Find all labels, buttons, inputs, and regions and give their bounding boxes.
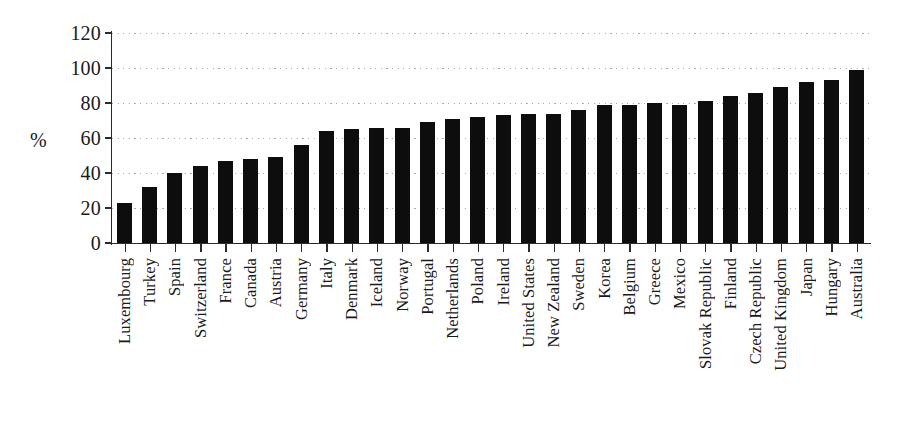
y-axis-unit-label: % [30, 130, 47, 150]
bar [344, 129, 359, 243]
gridline [112, 68, 870, 69]
x-axis-category-label: France [219, 258, 233, 304]
x-axis-category-label: United States [522, 258, 536, 348]
x-axis-category-label: Turkey [143, 258, 157, 306]
x-axis-category-label: Spain [168, 258, 182, 296]
bar [142, 187, 157, 243]
x-axis-tick [125, 243, 126, 252]
bar [319, 131, 334, 243]
bar [672, 105, 687, 243]
x-axis-tick [402, 243, 403, 252]
y-axis-tick [105, 242, 112, 243]
x-axis-category-label: Czech Republic [749, 258, 763, 364]
x-axis-tick [831, 243, 832, 252]
y-axis-tick-label: 20 [81, 198, 101, 218]
x-axis-category-label: Poland [471, 258, 485, 304]
bar [193, 166, 208, 243]
x-axis-tick [175, 243, 176, 252]
x-axis-tick [554, 243, 555, 252]
bar [395, 128, 410, 244]
x-axis-tick [225, 243, 226, 252]
bar [167, 173, 182, 243]
x-axis-category-label: Belgium [623, 258, 637, 316]
x-axis-category-label: Japan [800, 258, 814, 296]
bar [294, 145, 309, 243]
y-axis-tick-label: 40 [81, 163, 101, 183]
bar [369, 128, 384, 244]
x-axis-category-label: Mexico [673, 258, 687, 309]
x-axis-category-label: Italy [320, 258, 334, 289]
x-axis-category-label: Korea [598, 258, 612, 299]
x-axis-category-label: Netherlands [446, 258, 460, 339]
x-axis-tick [528, 243, 529, 252]
y-axis-tick-label: 0 [91, 233, 101, 253]
x-axis-category-label: Norway [396, 258, 410, 312]
bar [546, 114, 561, 244]
x-axis-tick [427, 243, 428, 252]
bar [268, 157, 283, 243]
x-axis-category-label: Portugal [421, 258, 435, 315]
x-axis-tick [730, 243, 731, 252]
x-axis-category-label: Austria [269, 258, 283, 307]
x-axis-tick [781, 243, 782, 252]
bar [445, 119, 460, 243]
bar [597, 105, 612, 243]
x-axis-tick [857, 243, 858, 252]
bar [748, 93, 763, 244]
bar [243, 159, 258, 243]
bar [773, 87, 788, 243]
x-axis-category-label: Australia [850, 258, 864, 319]
x-axis-category-label: Luxembourg [118, 258, 132, 344]
bar [824, 80, 839, 243]
x-axis-tick [655, 243, 656, 252]
x-axis-category-label: Canada [244, 258, 258, 308]
x-axis-category-label: Switzerland [194, 258, 208, 338]
x-axis-tick [604, 243, 605, 252]
bar [496, 115, 511, 243]
x-axis-tick [806, 243, 807, 252]
bar-chart-figure: % 020406080100120 LuxembourgTurkeySpainS… [0, 0, 898, 423]
x-axis-category-label: New Zealand [547, 258, 561, 348]
y-axis-tick-label: 120 [70, 23, 101, 43]
bar [622, 105, 637, 243]
y-axis-tick [105, 172, 112, 173]
x-axis-tick [377, 243, 378, 252]
x-axis-tick [251, 243, 252, 252]
x-axis-tick [150, 243, 151, 252]
x-axis-tick [453, 243, 454, 252]
bar [218, 161, 233, 243]
x-axis-category-label: Germany [295, 258, 309, 320]
bar [420, 122, 435, 243]
bar [571, 110, 586, 243]
x-axis-tick [352, 243, 353, 252]
bar [470, 117, 485, 243]
x-axis-tick [756, 243, 757, 252]
bar [698, 101, 713, 243]
x-axis-tick [579, 243, 580, 252]
x-axis-category-label: Greece [648, 258, 662, 305]
y-axis-tick [105, 207, 112, 208]
x-axis-category-label: Slovak Republic [699, 258, 713, 369]
bar [849, 70, 864, 243]
bar [647, 103, 662, 243]
x-axis-tick [503, 243, 504, 252]
y-axis-tick-label: 80 [81, 93, 101, 113]
x-axis-tick [276, 243, 277, 252]
x-axis-tick [478, 243, 479, 252]
x-axis-category-label: Sweden [572, 258, 586, 311]
bar [521, 114, 536, 244]
gridline [112, 33, 870, 34]
x-axis-tick [326, 243, 327, 252]
y-axis-tick-label: 60 [81, 128, 101, 148]
x-axis-tick [629, 243, 630, 252]
x-axis-category-label: Iceland [370, 258, 384, 307]
x-axis-tick [301, 243, 302, 252]
x-axis-category-label: Denmark [345, 258, 359, 320]
x-axis-category-label: Hungary [825, 258, 839, 316]
y-axis-tick-label: 100 [70, 58, 101, 78]
plot-area: 020406080100120 [112, 33, 870, 243]
bar [723, 96, 738, 243]
bar [799, 82, 814, 243]
bar [117, 203, 132, 243]
x-axis-tick [705, 243, 706, 252]
